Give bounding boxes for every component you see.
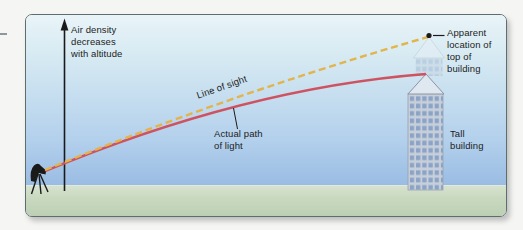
apparent-building-ghost: [414, 37, 445, 76]
air-density-label: Air density decreases with altitude: [71, 24, 122, 60]
tall-building-icon: [408, 74, 444, 190]
telescope-observer-icon: [31, 164, 48, 194]
apparent-location-label: Apparent location of top of building: [447, 27, 491, 76]
actual-path-label: Actual path of light: [214, 128, 263, 152]
figure-page: Air density decreases with altitude Line…: [0, 0, 523, 230]
dot-marker: [426, 33, 431, 38]
building-roof: [408, 74, 444, 94]
tall-building-label: Tall building: [450, 128, 484, 152]
actual-path-leader-line: [234, 108, 238, 129]
